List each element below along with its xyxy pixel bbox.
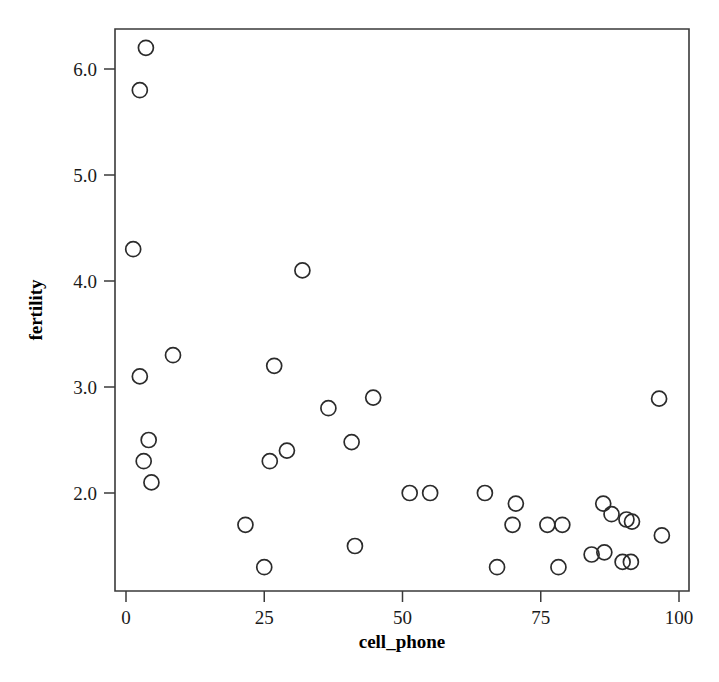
y-tick-label: 3.0 [73,377,97,398]
data-point [132,369,147,384]
x-axis-title: cell_phone [359,631,446,652]
data-point [295,263,310,278]
data-point-series [126,40,670,574]
x-tick-label: 50 [393,607,412,628]
y-tick-label: 2.0 [73,483,97,504]
data-point [257,560,272,575]
data-point [267,358,282,373]
data-point [604,507,619,522]
data-point [141,433,156,448]
y-axis-ticks: 2.03.04.05.06.0 [73,59,115,504]
data-point [624,514,639,529]
data-point [490,560,505,575]
data-point [505,517,520,532]
plot-border [115,29,689,591]
data-point [366,390,381,405]
data-point [551,560,566,575]
y-tick-label: 5.0 [73,165,97,186]
data-point [321,401,336,416]
data-point [596,496,611,511]
y-tick-label: 6.0 [73,59,97,80]
data-point [652,391,667,406]
data-point [347,539,362,554]
scatter-plot-page: 0255075100 2.03.04.05.06.0 cell_phone fe… [0,0,719,682]
x-tick-label: 75 [531,607,550,628]
data-point [262,454,277,469]
data-point [138,40,153,55]
data-point [555,517,570,532]
data-point [540,517,555,532]
y-axis-title: fertility [25,279,46,341]
x-axis-ticks: 0255075100 [121,591,693,628]
data-point [279,443,294,458]
data-point [136,454,151,469]
data-point [402,486,417,501]
data-point [654,528,669,543]
data-point [423,486,438,501]
x-tick-label: 0 [121,607,131,628]
plot-frame [115,29,689,591]
data-point [238,517,253,532]
y-tick-label: 4.0 [73,271,97,292]
data-point [132,83,147,98]
x-tick-label: 100 [665,607,694,628]
data-point [144,475,159,490]
data-point [344,435,359,450]
x-tick-label: 25 [255,607,274,628]
scatter-plot-figure: 0255075100 2.03.04.05.06.0 cell_phone fe… [0,0,719,682]
data-point [126,242,141,257]
data-point [508,496,523,511]
data-point [166,348,181,363]
data-point [477,486,492,501]
